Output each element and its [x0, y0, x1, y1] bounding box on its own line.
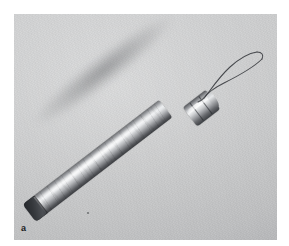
dust-speck — [87, 212, 89, 214]
panel-label: a — [21, 224, 26, 233]
photograph-plate: a — [14, 14, 277, 240]
ferrule — [183, 90, 221, 127]
figure-panel: a — [0, 0, 289, 246]
wire-loop-probe — [14, 14, 277, 240]
